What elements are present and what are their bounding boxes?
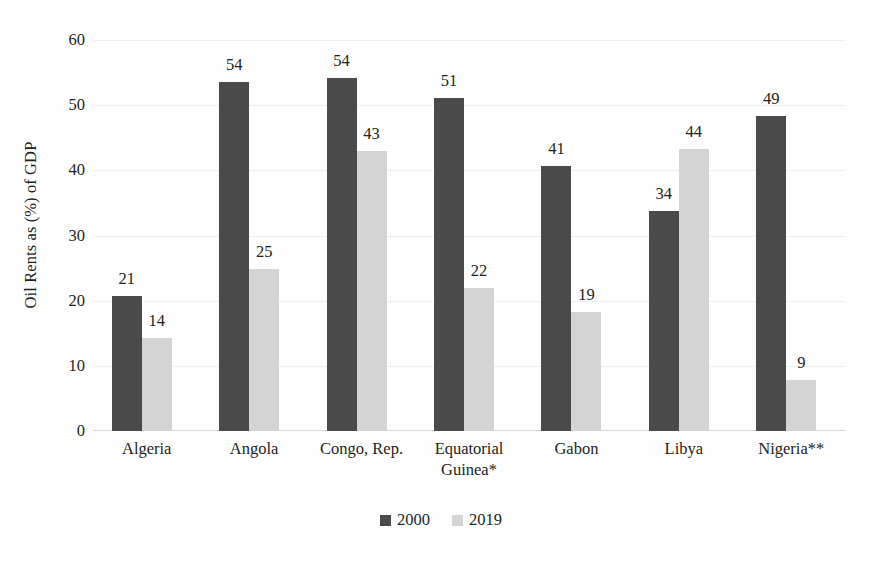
bar-value-label: 54 bbox=[317, 53, 367, 70]
legend-swatch-icon bbox=[380, 515, 391, 526]
bar-2019 bbox=[357, 151, 387, 431]
bar-value-label: 9 bbox=[776, 355, 826, 372]
bar-group: 2114 bbox=[93, 40, 200, 431]
y-axis-tick-labels: 6050403020100 bbox=[43, 0, 85, 564]
bar-value-label: 51 bbox=[424, 73, 474, 90]
plot-area: 211454255443512241193444499 bbox=[93, 40, 845, 431]
chart-figure: Oil Rents as (%) of GDP 6050403020100 21… bbox=[0, 0, 882, 564]
y-axis-tick-label: 30 bbox=[47, 228, 85, 245]
bar-value-label: 14 bbox=[132, 313, 182, 330]
bar-value-label: 54 bbox=[209, 57, 259, 74]
x-axis-category-label: Nigeria** bbox=[724, 438, 859, 459]
bar-value-label: 41 bbox=[531, 141, 581, 158]
bar-group: 499 bbox=[738, 40, 845, 431]
legend-label: 2000 bbox=[397, 512, 430, 529]
bar-2019 bbox=[786, 380, 816, 431]
x-axis-category-label-line: Guinea* bbox=[401, 459, 536, 480]
bar-group: 3444 bbox=[630, 40, 737, 431]
bar-2019 bbox=[249, 269, 279, 431]
bar-group: 5122 bbox=[415, 40, 522, 431]
bar-value-label: 22 bbox=[454, 263, 504, 280]
bar-2019 bbox=[571, 312, 601, 431]
y-axis-tick-label: 50 bbox=[47, 97, 85, 114]
bar-group: 5425 bbox=[200, 40, 307, 431]
bar-2000 bbox=[649, 211, 679, 431]
y-axis-tick-label: 10 bbox=[47, 358, 85, 375]
bar-value-label: 19 bbox=[561, 287, 611, 304]
bar-2000 bbox=[756, 116, 786, 431]
bar-value-label: 49 bbox=[746, 91, 796, 108]
y-axis-tick-label: 20 bbox=[47, 293, 85, 310]
bar-value-label: 21 bbox=[102, 271, 152, 288]
x-axis-category-label-line: Nigeria** bbox=[724, 438, 859, 459]
bar-2019 bbox=[679, 149, 709, 431]
bar-group: 4119 bbox=[523, 40, 630, 431]
legend-swatch-icon bbox=[452, 515, 463, 526]
legend-item[interactable]: 2019 bbox=[452, 512, 502, 529]
bar-value-label: 43 bbox=[347, 126, 397, 143]
bar-value-label: 25 bbox=[239, 244, 289, 261]
bar-value-label: 44 bbox=[669, 124, 719, 141]
x-axis-category-labels: AlgeriaAngolaCongo, Rep.EquatorialGuinea… bbox=[93, 438, 845, 496]
bar-2019 bbox=[464, 288, 494, 431]
legend-item[interactable]: 2000 bbox=[380, 512, 430, 529]
bar-2019 bbox=[142, 338, 172, 431]
chart-legend: 20002019 bbox=[0, 512, 882, 529]
y-axis-tick-label: 40 bbox=[47, 162, 85, 179]
y-axis-tick-label: 60 bbox=[47, 32, 85, 49]
bar-group: 5443 bbox=[308, 40, 415, 431]
legend-label: 2019 bbox=[469, 512, 502, 529]
